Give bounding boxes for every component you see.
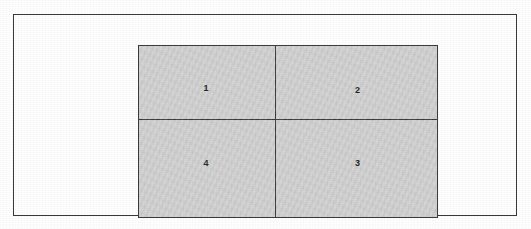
quadrant-label-4: 4 bbox=[204, 159, 209, 168]
quadrant-top-right[interactable]: 2 bbox=[276, 46, 437, 120]
quadrant-bottom-left[interactable]: 4 bbox=[139, 120, 276, 217]
quadrant-label-1: 1 bbox=[204, 84, 209, 93]
quadrant-bottom-right[interactable]: 3 bbox=[276, 120, 437, 217]
quadrant-label-2: 2 bbox=[355, 86, 360, 95]
quadrant-grid: 1 2 4 3 bbox=[138, 45, 438, 218]
scanned-page: 1 2 4 3 bbox=[0, 0, 531, 229]
quadrant-top-left[interactable]: 1 bbox=[139, 46, 276, 120]
quadrant-label-3: 3 bbox=[355, 159, 360, 168]
outer-frame-border: 1 2 4 3 bbox=[13, 14, 517, 216]
